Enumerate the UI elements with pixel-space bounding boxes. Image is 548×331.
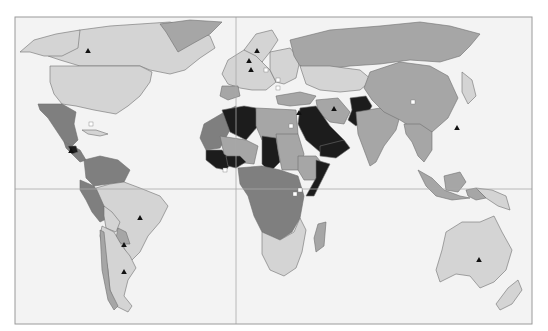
square-marker-icon bbox=[293, 192, 297, 196]
square-marker-icon bbox=[223, 168, 227, 172]
square-marker-icon bbox=[298, 188, 302, 192]
square-marker-icon bbox=[276, 78, 280, 82]
world-map bbox=[0, 0, 548, 331]
square-marker-icon bbox=[264, 68, 268, 72]
square-marker-icon bbox=[276, 86, 280, 90]
square-marker-icon bbox=[89, 122, 93, 126]
square-marker-icon bbox=[411, 100, 415, 104]
square-marker-icon bbox=[289, 124, 293, 128]
map-canvas bbox=[0, 0, 548, 331]
